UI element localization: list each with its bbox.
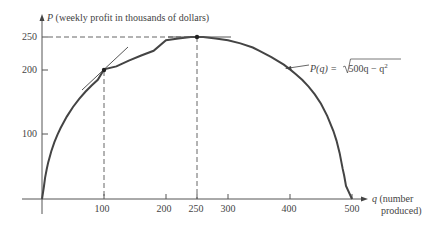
point-q250: [195, 35, 199, 39]
function-label: P(q) = 500q − q2: [310, 61, 388, 74]
x-tick-100: 100: [95, 203, 110, 214]
point-q100: [102, 68, 106, 72]
y-axis-desc: (weekly profit in thousands of dollars): [56, 12, 210, 23]
x-axis-title-line2: produced): [381, 205, 422, 216]
x-tick-500: 500: [345, 203, 360, 214]
y-axis-arrow: [40, 14, 45, 21]
x-axis-var: q: [372, 193, 377, 204]
x-axis-desc-1: (number: [380, 193, 414, 204]
y-axis-title: P (weekly profit in thousands of dollars…: [47, 12, 209, 23]
x-axis-title: q (number: [372, 193, 413, 204]
x-ticks: [104, 194, 352, 199]
x-tick-250: 250: [189, 203, 204, 214]
x-axis-arrow: [361, 197, 368, 202]
formula-radicand: 500q − q: [349, 63, 385, 74]
formula-pointer: [289, 65, 309, 68]
y-tick-250: 250: [11, 31, 37, 42]
formula-exponent: 2: [384, 62, 388, 70]
x-tick-300: 300: [221, 203, 236, 214]
y-tick-100: 100: [11, 128, 37, 139]
y-tick-200: 200: [11, 64, 37, 75]
y-ticks: [42, 37, 48, 134]
y-axis-var: P: [47, 12, 53, 23]
x-tick-200: 200: [157, 203, 172, 214]
formula-lhs: P(q) =: [310, 63, 340, 74]
dashed-guides: [48, 37, 197, 199]
x-tick-400: 400: [282, 203, 297, 214]
